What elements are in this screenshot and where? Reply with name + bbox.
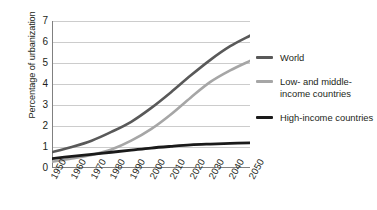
legend-color-swatch-icon [256, 116, 273, 119]
data-series-lines [52, 36, 250, 162]
chart-figure: Percentage of urbanization 01234567 1950… [0, 0, 377, 210]
legend-item[interactable]: High-income countries [256, 112, 377, 123]
y-tick-label: 5 [28, 58, 48, 68]
legend-item[interactable]: Low- and middle-income countries [256, 76, 377, 99]
legend-item[interactable]: World [256, 52, 377, 63]
y-tick-label: 6 [28, 37, 48, 47]
series-line-1 [52, 61, 250, 162]
chart-canvas [52, 21, 250, 168]
y-tick-label: 7 [28, 16, 48, 26]
y-tick-label: 0 [28, 163, 48, 173]
axis-tick-marks [52, 22, 250, 169]
plot-area [52, 21, 250, 168]
y-tick-label: 2 [28, 121, 48, 131]
legend-color-swatch-icon [256, 80, 273, 83]
y-tick-label: 1 [28, 142, 48, 152]
axis-lines [52, 21, 250, 168]
gridlines [52, 22, 250, 169]
y-tick-label: 4 [28, 79, 48, 89]
y-tick-label: 3 [28, 100, 48, 110]
legend-item-label: High-income countries [280, 112, 373, 123]
series-line-0 [52, 36, 250, 153]
legend-item-label: World [280, 52, 304, 63]
legend-item-label: Low- and middle-income countries [280, 76, 377, 99]
legend-color-swatch-icon [256, 56, 273, 59]
chart-legend: WorldLow- and middle-income countriesHig… [256, 52, 377, 137]
